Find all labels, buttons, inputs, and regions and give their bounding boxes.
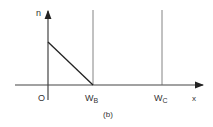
density-profile-line [48, 42, 93, 85]
y-axis-label: n [36, 8, 41, 18]
figure-caption: (b) [103, 110, 113, 119]
diagram: n O WB WC x (b) [0, 0, 213, 127]
x-axis-label: x [192, 94, 196, 103]
wc-label: WC [154, 93, 168, 104]
origin-label: O [38, 93, 45, 103]
wb-label: WB [85, 93, 99, 104]
